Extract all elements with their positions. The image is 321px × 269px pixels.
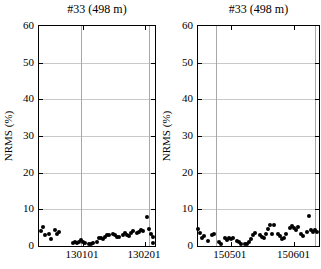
data-point — [272, 223, 276, 227]
data-point — [262, 236, 266, 240]
y-tick-mark — [315, 136, 319, 137]
y-tick-mark — [198, 99, 202, 100]
right-chart-title: #33 (498 m) — [197, 2, 320, 17]
data-point — [270, 232, 274, 236]
x-tick-label: 150601 — [268, 248, 318, 260]
x-tick-mark — [294, 26, 295, 30]
data-point — [219, 242, 223, 246]
y-tick-label: 10 — [165, 202, 193, 214]
y-tick-mark — [315, 99, 319, 100]
data-point — [249, 237, 253, 241]
y-tick-label: 40 — [165, 92, 193, 104]
y-tick-label: 0 — [165, 239, 193, 251]
x-tick-mark — [231, 26, 232, 30]
x-tick-mark — [294, 242, 295, 246]
y-tick-label: 60 — [165, 19, 193, 31]
data-point — [296, 225, 300, 229]
y-tick-mark — [198, 63, 202, 64]
x-tick-mark — [231, 242, 232, 246]
data-point — [253, 231, 257, 235]
data-point — [307, 214, 311, 218]
data-point — [315, 230, 319, 234]
right-chart-plot-area — [197, 25, 320, 247]
y-tick-label: 30 — [165, 129, 193, 141]
y-tick-mark — [198, 209, 202, 210]
x-tick-label: 150501 — [205, 248, 255, 260]
data-point — [206, 239, 210, 243]
y-tick-label: 20 — [165, 166, 193, 178]
y-tick-label: 50 — [165, 56, 193, 68]
y-tick-mark — [315, 173, 319, 174]
data-point — [282, 236, 286, 240]
event-line — [216, 26, 217, 246]
y-tick-mark — [315, 63, 319, 64]
right-chart: #33 (498 m) NRMS (%) 0102030405060150501… — [0, 0, 321, 269]
data-point — [266, 227, 270, 231]
data-point — [284, 232, 288, 236]
data-point — [301, 234, 305, 238]
data-point — [264, 232, 268, 236]
data-point — [202, 234, 206, 238]
y-tick-mark — [198, 173, 202, 174]
figure: #33 (498 m) NRMS (%) 0102030405060130101… — [0, 0, 321, 269]
y-tick-mark — [198, 136, 202, 137]
y-tick-mark — [315, 209, 319, 210]
